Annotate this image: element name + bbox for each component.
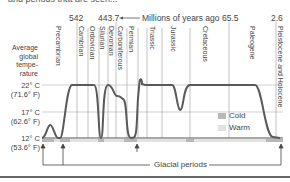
period-jurassic: Jurassic <box>170 26 177 52</box>
legend-warm-label: Warm <box>229 123 250 132</box>
period-carboniferous: Carboniferous <box>117 26 124 70</box>
period-pleistocene-holocene: Pleistocene and Holocene <box>277 26 284 107</box>
period-precambrian: Precambrian <box>55 26 62 66</box>
legend-cold-label: Cold <box>229 111 245 120</box>
period-silurian: Silurian <box>99 26 106 49</box>
period-ordovician: Ordovician <box>89 26 96 59</box>
period-permian: Permian <box>128 26 135 52</box>
period-devonian: Devonian <box>108 26 115 56</box>
warm-swatch-icon <box>218 125 226 131</box>
period-paleogene: Paleogene <box>249 26 256 59</box>
legend-warm: Warm <box>218 123 250 132</box>
cold-swatch-icon <box>218 113 226 119</box>
legend-cold: Cold <box>218 111 250 120</box>
chart-graphic <box>0 0 290 182</box>
period-triassic: Triassic <box>149 26 156 50</box>
bottom-rule <box>0 176 290 178</box>
legend: Cold Warm <box>218 111 250 132</box>
glacial-periods-label: Glacial periods <box>152 160 209 169</box>
period-cretaceous: Cretaceous <box>202 26 209 62</box>
period-cambrian: Cambrian <box>78 26 85 56</box>
